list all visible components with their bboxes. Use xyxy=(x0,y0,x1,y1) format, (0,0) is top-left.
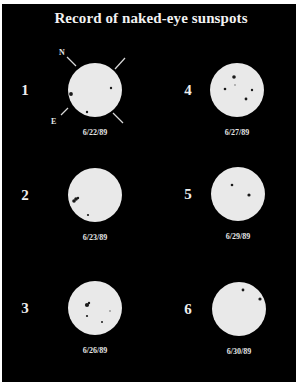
sun-disk xyxy=(212,282,266,336)
sun-panel-5: 56/29/89 xyxy=(184,167,265,241)
sun-disk xyxy=(210,63,264,117)
sun-disk xyxy=(68,281,122,335)
sun-panel-1: 16/22/89 xyxy=(21,63,122,137)
sun-disk xyxy=(68,168,122,222)
sunspot xyxy=(101,321,103,323)
panel-date: 6/26/89 xyxy=(83,346,107,355)
sunspot xyxy=(251,89,253,91)
sunspot xyxy=(231,184,234,187)
north-label: N xyxy=(59,48,65,57)
panel-date: 6/23/89 xyxy=(83,233,107,242)
sunspot xyxy=(245,98,248,101)
sun-panel-3: 36/26/89 xyxy=(21,281,122,355)
sun-disk xyxy=(68,63,122,117)
southeast-axis-line xyxy=(113,113,123,123)
sunspot xyxy=(87,214,89,216)
sun-panels: 16/22/8926/23/8936/26/8946/27/8956/29/89… xyxy=(21,63,266,356)
sunspot xyxy=(86,111,88,113)
sunspot xyxy=(86,315,88,317)
sunspot xyxy=(110,87,112,89)
sunspot xyxy=(258,297,261,300)
sunspot xyxy=(69,92,73,96)
sunspot xyxy=(247,193,250,196)
panel-date: 6/29/89 xyxy=(226,232,250,241)
sunspot xyxy=(224,88,227,91)
panel-number: 2 xyxy=(21,187,29,203)
panel-number: 5 xyxy=(184,186,192,202)
east-label: E xyxy=(51,117,56,126)
sunspot-diagram: N E 16/22/8926/23/8936/26/8946/27/8956/2… xyxy=(0,0,302,389)
sunspot xyxy=(234,84,236,86)
northwest-axis-line xyxy=(115,58,125,69)
sunspot xyxy=(88,302,90,304)
panel-number: 4 xyxy=(184,82,192,98)
sun-panel-4: 46/27/89 xyxy=(184,63,264,137)
panel-number: 3 xyxy=(21,300,29,316)
sun-panel-6: 66/30/89 xyxy=(184,282,266,356)
panel-date: 6/30/89 xyxy=(227,347,251,356)
north-axis-line xyxy=(67,57,76,66)
panel-number: 6 xyxy=(184,301,192,317)
sunspot xyxy=(109,310,111,312)
panel-number: 1 xyxy=(21,82,29,98)
panel-date: 6/27/89 xyxy=(225,128,249,137)
east-axis-line xyxy=(61,108,68,115)
sun-panel-2: 26/23/89 xyxy=(21,168,122,242)
sunspot xyxy=(242,289,245,292)
panel-date: 6/22/89 xyxy=(83,128,107,137)
sunspot xyxy=(77,197,79,199)
sun-disk xyxy=(211,167,265,221)
sunspot xyxy=(232,75,236,79)
